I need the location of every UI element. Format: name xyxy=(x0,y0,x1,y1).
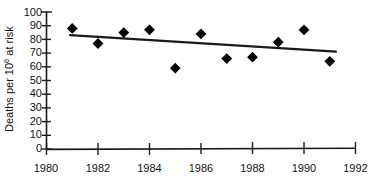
x-tick-label: 1988 xyxy=(240,162,264,174)
x-tick-label: 1982 xyxy=(86,162,110,174)
scatter-plot-svg: Deaths per 106 at risk 100 90 80 70 60 5… xyxy=(0,0,373,181)
y-tick-label: 80 xyxy=(30,33,42,45)
y-tick-label: 100 xyxy=(24,6,42,18)
y-tick-label: 60 xyxy=(30,60,42,72)
y-tick-label: 40 xyxy=(30,87,42,99)
y-tick-label: 20 xyxy=(30,115,42,127)
y-tick-label: 10 xyxy=(30,128,42,140)
data-point-marker xyxy=(144,24,155,35)
y-tick-label: 30 xyxy=(30,101,42,113)
data-point-marker xyxy=(118,27,129,38)
y-tick-label: 70 xyxy=(30,46,42,58)
y-axis xyxy=(41,12,52,150)
y-axis-title: Deaths per 106 at risk xyxy=(2,26,15,132)
x-tick-label: 1992 xyxy=(343,162,367,174)
x-axis xyxy=(46,142,356,155)
svg-text:Deaths per 106 at risk: Deaths per 106 at risk xyxy=(2,26,15,132)
data-point-marker xyxy=(170,63,181,74)
y-axis-title-text: Deaths per 10 xyxy=(3,63,15,132)
y-axis-tick-labels: 100 90 80 70 60 50 40 30 20 10 0 xyxy=(24,6,42,154)
x-axis-tick-labels: 1980 1982 1984 1986 1988 1990 1992 xyxy=(34,162,368,174)
y-tick-label: 90 xyxy=(30,19,42,31)
data-point-marker xyxy=(324,56,335,67)
data-point-marker xyxy=(247,52,258,63)
trend-line xyxy=(70,35,336,52)
data-point-marker xyxy=(273,37,284,48)
x-tick-label: 1984 xyxy=(137,162,161,174)
data-point-marker xyxy=(67,23,78,34)
chart-container: Deaths per 106 at risk 100 90 80 70 60 5… xyxy=(0,0,373,181)
data-point-marker xyxy=(299,24,310,35)
data-point-marker xyxy=(196,29,207,40)
y-tick-label: 50 xyxy=(30,74,42,86)
data-point-marker xyxy=(221,53,232,64)
x-tick-label: 1986 xyxy=(189,162,213,174)
data-point-marker xyxy=(93,38,104,49)
x-tick-label: 1990 xyxy=(292,162,316,174)
y-axis-title-tail: at risk xyxy=(3,26,15,59)
y-tick-label: 0 xyxy=(36,142,42,154)
x-tick-label: 1980 xyxy=(34,162,58,174)
